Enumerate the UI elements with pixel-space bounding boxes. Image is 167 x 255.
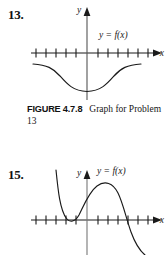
problem-15-block: 15. [0, 160, 167, 253]
function-curve [56, 170, 145, 255]
problem-13-graph: y x y = f(x) [27, 2, 165, 102]
function-label: y = f(x) [98, 30, 128, 41]
y-axis-arrowhead [84, 170, 91, 179]
problem-13-figure-svg: y x y = f(x) [27, 2, 165, 102]
function-label: y = f(x) [96, 166, 126, 177]
figure-caption: FIGURE 4.7.8Graph for Problem 13 [27, 104, 167, 127]
y-axis-label: y [76, 5, 82, 15]
y-axis-label: y [76, 168, 82, 178]
figure-caption-label: FIGURE 4.7.8 [27, 104, 82, 114]
x-axis-label: x [159, 48, 165, 58]
problem-15-figure-svg: y x y = f(x) [27, 162, 165, 255]
problem-15-number: 15. [8, 168, 24, 181]
y-axis-arrowhead [84, 7, 91, 16]
x-axis-label: x [159, 215, 165, 225]
problem-13-number: 13. [8, 8, 24, 21]
problem-15-graph: y x y = f(x) [27, 162, 165, 255]
problem-13-block: 13. [0, 0, 167, 130]
